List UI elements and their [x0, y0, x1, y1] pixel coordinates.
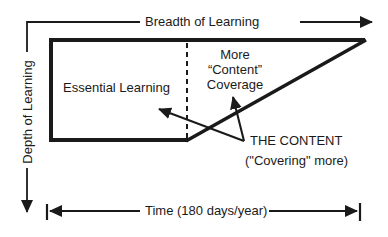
the-content-label: THE CONTENT [250, 133, 342, 148]
diagram-canvas [0, 0, 388, 237]
covering-more-label: ("Covering" more) [245, 153, 348, 168]
time-label: Time (180 days/year) [143, 203, 269, 218]
more-line-2: “Content” [200, 62, 270, 77]
essential-learning-label: Essential Learning [63, 80, 170, 95]
content-callout-arrows [159, 97, 244, 141]
more-content-coverage-label: More “Content” Coverage [200, 47, 270, 92]
depth-of-learning-label: Depth of Learning [20, 58, 35, 165]
more-line-3: Coverage [200, 77, 270, 92]
breadth-of-learning-label: Breadth of Learning [143, 14, 261, 29]
more-line-1: More [200, 47, 270, 62]
